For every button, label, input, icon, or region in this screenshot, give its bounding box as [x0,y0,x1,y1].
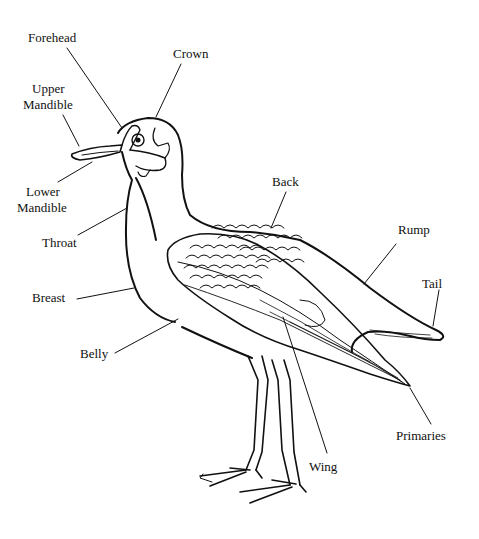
bird-topography-diagram: Forehead Crown Upper Mandible Lower Mand… [0,0,479,539]
bird-outline [72,118,444,358]
wing-drawing [167,225,410,386]
label-upper-mandible-line1: Upper [32,81,65,96]
label-belly: Belly [80,346,108,361]
label-rump: Rump [398,222,430,237]
label-lower-mandible-line2: Mandible [17,200,67,215]
label-breast: Breast [32,290,65,305]
legs-drawing [200,356,306,503]
label-throat: Throat [42,235,77,250]
bird-illustration [0,0,479,539]
label-tail: Tail [422,276,442,291]
label-upper-mandible-line2: Mandible [23,97,73,112]
leader-lines [58,48,439,453]
label-lower-mandible-line1: Lower [26,184,60,199]
label-wing: Wing [309,459,337,474]
label-primaries: Primaries [396,428,446,443]
label-crown: Crown [173,46,208,61]
label-back: Back [272,174,299,189]
label-forehead: Forehead [28,30,76,45]
